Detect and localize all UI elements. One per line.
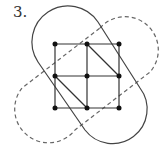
edge-diagonal: [87, 44, 119, 76]
solid-capsule: [32, 6, 147, 144]
vertex: [53, 42, 58, 47]
vertex: [85, 74, 90, 79]
vertex: [117, 74, 122, 79]
vertex: [85, 42, 90, 47]
vertex: [53, 106, 58, 111]
vertex: [117, 42, 122, 47]
vertex: [117, 106, 122, 111]
edge-diagonal: [55, 76, 87, 108]
vertex: [85, 106, 90, 111]
graph-diagram: [0, 0, 168, 150]
vertex: [53, 74, 58, 79]
